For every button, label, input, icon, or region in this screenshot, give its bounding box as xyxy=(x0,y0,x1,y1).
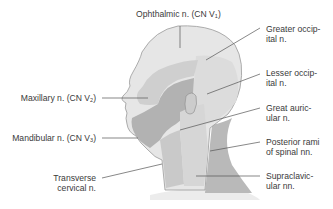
label-maxillary-n: Maxillary n. (CN V2) xyxy=(0,93,96,105)
label-great-auricular-n: Great auric-ular n. xyxy=(266,103,311,123)
region-posterior-rami xyxy=(205,118,252,193)
label-posterior-rami: Posterior ramiof spinal nn. xyxy=(266,137,319,157)
label-mandibular-n: Mandibular n. (CN V3) xyxy=(0,133,96,145)
label-greater-occipital-n: Greater occip-ital n. xyxy=(266,24,320,44)
region-great-auricular xyxy=(180,104,208,186)
label-transverse-cervical-n: Transversecervical n. xyxy=(0,173,96,193)
label-supraclavicular-nn: Supraclavic-ular nn. xyxy=(266,171,313,191)
label-ophthalmic-n: Ophthalmic n. (CN V1) xyxy=(136,9,221,21)
label-lesser-occipital-n: Lesser occip-ital n. xyxy=(266,68,317,88)
